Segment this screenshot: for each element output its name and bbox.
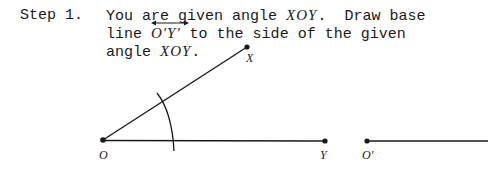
construction-figure bbox=[0, 0, 488, 178]
ray-ox bbox=[103, 47, 247, 140]
construction-arc bbox=[157, 93, 174, 151]
label-o: O bbox=[99, 148, 108, 163]
label-y: Y bbox=[320, 148, 327, 163]
ray-oy bbox=[103, 141, 325, 142]
point-y bbox=[322, 138, 327, 143]
point-x bbox=[244, 44, 249, 49]
point-o bbox=[100, 137, 106, 143]
point-o-prime bbox=[364, 138, 369, 143]
label-x: X bbox=[246, 51, 253, 66]
label-o-prime: O' bbox=[362, 148, 373, 163]
